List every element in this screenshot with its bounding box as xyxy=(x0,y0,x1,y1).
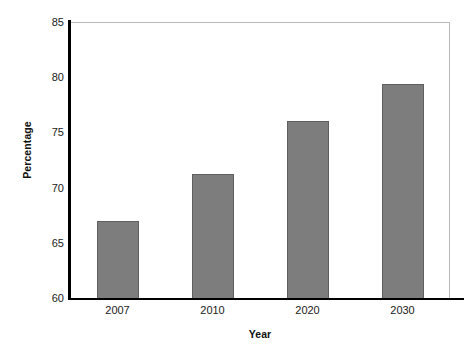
x-tick-label: 2007 xyxy=(105,304,129,316)
x-axis-title: Year xyxy=(70,328,450,340)
x-axis-tick-labels: 2007201020202030 xyxy=(70,304,450,322)
x-tick-label: 2030 xyxy=(390,304,414,316)
bar-chart-figure: Percentage 606570758085 2007201020202030… xyxy=(0,0,474,355)
bar-2020 xyxy=(287,121,329,298)
y-tick-label: 85 xyxy=(38,16,64,28)
bar-2030 xyxy=(382,84,424,298)
y-tick-label: 70 xyxy=(38,182,64,194)
bar-2010 xyxy=(192,174,234,298)
y-axis-tick-labels: 606570758085 xyxy=(38,0,64,355)
y-tick-label: 75 xyxy=(38,126,64,138)
y-tick-label: 65 xyxy=(38,237,64,249)
x-tick-label: 2020 xyxy=(295,304,319,316)
y-axis-title-text: Percentage xyxy=(21,121,33,179)
bar-2007 xyxy=(97,221,139,298)
y-tick-label: 60 xyxy=(38,292,64,304)
x-tick-label: 2010 xyxy=(200,304,224,316)
bars-layer xyxy=(70,22,450,298)
y-tick-label: 80 xyxy=(38,71,64,83)
y-axis-title: Percentage xyxy=(16,0,38,300)
